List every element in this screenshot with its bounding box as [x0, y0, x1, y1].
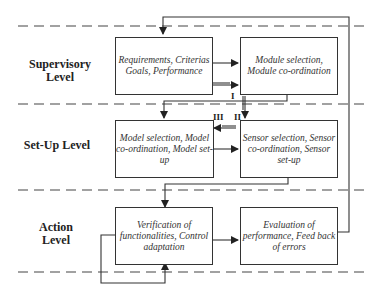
box-evaluation: Evaluation of performance, Feed back of … — [240, 207, 338, 265]
label-i: I — [231, 91, 235, 101]
box-module: Module selection, Module co-ordination — [240, 37, 338, 95]
arrow-module-model — [164, 94, 287, 118]
box-requirements: Requirements, Criterias Goals, Performan… — [115, 37, 213, 95]
label-iii: III — [213, 112, 224, 122]
box-sensor: Sensor selection, Sensor co-ordination, … — [240, 120, 338, 178]
box-verification: Verification of functionalities, Control… — [115, 207, 213, 265]
level-label-action: Action Level — [30, 221, 82, 247]
label-ii: II — [234, 112, 241, 122]
box-model: Model selection, Model co-ordination, Mo… — [115, 120, 214, 178]
level-label-setup: Set-Up Level — [22, 139, 92, 152]
level-label-supervisory: Supervisory Level — [20, 58, 100, 84]
